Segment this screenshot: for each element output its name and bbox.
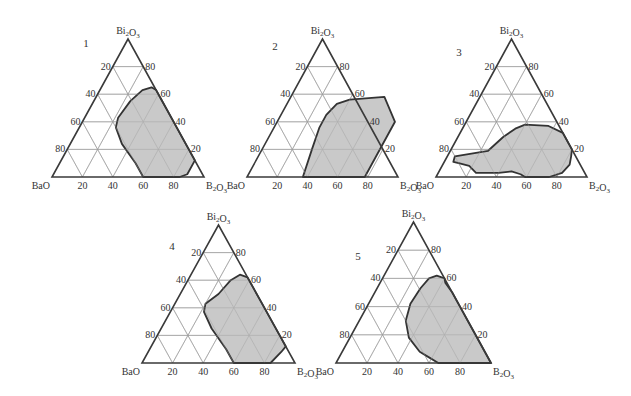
right-tick-label: 40: [559, 116, 569, 127]
right-tick-label: 20: [191, 143, 201, 154]
vertex-label-bi2o3: Bi2O3: [311, 25, 335, 40]
right-tick-label: 60: [447, 272, 457, 283]
left-tick-label: 40: [86, 88, 96, 99]
right-tick-label: 60: [251, 274, 261, 285]
right-tick-label: 60: [160, 88, 170, 99]
vertex-label-bao: BaO: [416, 180, 434, 191]
ternary-panel-1: 204060802040608080604020Bi2O3BaOB2O31: [32, 25, 228, 195]
vertex-label-bao: BaO: [122, 366, 140, 377]
right-tick-label: 20: [574, 143, 584, 154]
bottom-tick-label: 60: [138, 180, 148, 191]
right-tick-label: 80: [340, 61, 350, 72]
left-tick-label: 20: [101, 61, 111, 72]
bottom-tick-label: 60: [333, 180, 343, 191]
bottom-tick-label: 20: [77, 180, 87, 191]
vertex-label-bao: BaO: [316, 366, 334, 377]
ternary-panel-5: 204060802040608080604020Bi2O3BaOB2O35: [316, 208, 515, 381]
vertex-label-b2o3: B2O3: [206, 180, 227, 195]
bottom-tick-label: 40: [198, 366, 208, 377]
bottom-tick-label: 20: [272, 180, 282, 191]
vertex-label-bi2o3: Bi2O3: [500, 25, 524, 40]
glass-forming-region: [303, 97, 395, 177]
left-tick-label: 80: [340, 329, 350, 340]
panel-number: 4: [169, 240, 175, 252]
ternary-panel-2: 204060802040608080604020Bi2O3BaOB2O32: [227, 25, 422, 195]
left-tick-label: 40: [280, 88, 290, 99]
vertex-label-b2o3: B2O3: [493, 366, 514, 381]
left-tick-label: 80: [55, 143, 65, 154]
ternary-panel-3: 204060802040608080604020Bi2O3BaOB2O33: [416, 25, 611, 195]
bottom-tick-label: 80: [552, 180, 562, 191]
left-tick-label: 40: [176, 274, 186, 285]
bottom-tick-label: 80: [363, 180, 373, 191]
ternary-diagram-figure: 204060802040608080604020Bi2O3BaOB2O31204…: [0, 0, 631, 396]
bottom-tick-label: 60: [424, 366, 434, 377]
bottom-tick-label: 20: [362, 366, 372, 377]
bottom-tick-label: 40: [393, 366, 403, 377]
vertex-label-bao: BaO: [32, 180, 50, 191]
left-tick-label: 20: [386, 244, 396, 255]
bottom-tick-label: 40: [302, 180, 312, 191]
right-tick-label: 80: [236, 247, 246, 258]
left-tick-label: 40: [469, 88, 479, 99]
right-tick-label: 40: [462, 301, 472, 312]
bottom-tick-label: 40: [491, 180, 501, 191]
vertex-label-bi2o3: Bi2O3: [207, 211, 231, 226]
left-tick-label: 20: [484, 61, 494, 72]
panel-number: 5: [355, 250, 361, 262]
vertex-label-bao: BaO: [227, 180, 245, 191]
bottom-tick-label: 40: [108, 180, 118, 191]
bottom-tick-label: 80: [455, 366, 465, 377]
right-tick-label: 60: [355, 88, 365, 99]
panel-number: 2: [272, 40, 278, 52]
bottom-tick-label: 20: [168, 366, 178, 377]
left-tick-label: 60: [265, 116, 275, 127]
right-tick-label: 20: [478, 329, 488, 340]
left-tick-label: 60: [161, 302, 171, 313]
left-tick-label: 80: [145, 329, 155, 340]
right-tick-label: 40: [370, 116, 380, 127]
ternary-panel-4: 204060802040608080604020Bi2O3BaOB2O34: [122, 211, 319, 381]
panel-number: 1: [83, 37, 89, 49]
left-tick-label: 20: [191, 247, 201, 258]
bottom-tick-label: 60: [522, 180, 532, 191]
right-tick-label: 20: [282, 329, 292, 340]
left-tick-label: 60: [70, 116, 80, 127]
right-tick-label: 80: [431, 244, 441, 255]
glass-forming-region: [116, 87, 195, 177]
right-tick-label: 40: [176, 116, 186, 127]
vertex-label-bi2o3: Bi2O3: [116, 25, 140, 40]
left-tick-label: 80: [250, 143, 260, 154]
right-tick-label: 40: [266, 302, 276, 313]
bottom-tick-label: 20: [461, 180, 471, 191]
bottom-tick-label: 80: [169, 180, 179, 191]
left-tick-label: 60: [454, 116, 464, 127]
right-tick-label: 20: [385, 143, 395, 154]
left-tick-label: 80: [439, 143, 449, 154]
bottom-tick-label: 60: [229, 366, 239, 377]
left-tick-label: 40: [371, 272, 381, 283]
vertex-label-b2o3: B2O3: [589, 180, 610, 195]
right-tick-label: 60: [544, 88, 554, 99]
right-tick-label: 80: [145, 61, 155, 72]
bottom-tick-label: 80: [259, 366, 269, 377]
panel-number: 3: [456, 46, 462, 58]
vertex-label-bi2o3: Bi2O3: [402, 208, 426, 223]
left-tick-label: 60: [355, 301, 365, 312]
glass-forming-region: [406, 276, 491, 363]
right-tick-label: 80: [529, 61, 539, 72]
left-tick-label: 20: [295, 61, 305, 72]
